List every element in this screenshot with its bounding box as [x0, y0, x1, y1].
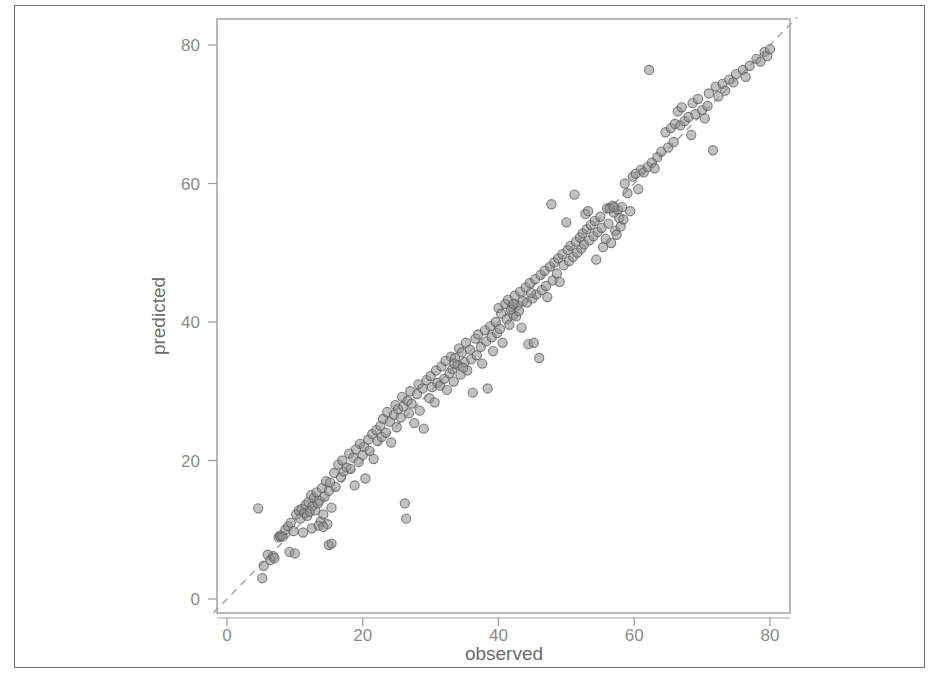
scatter-point [596, 212, 605, 221]
scatter-point [450, 359, 459, 368]
scatter-point [270, 554, 279, 563]
scatter-point [562, 218, 571, 227]
scatter-point [607, 238, 616, 247]
scatter-point [319, 522, 328, 531]
scatter-point [547, 200, 556, 209]
scatter-point [498, 338, 507, 347]
scatter-point [677, 103, 686, 112]
screenshot-page: 020406080 020406080 observed predicted [0, 0, 947, 683]
x-axis: 020406080 [217, 618, 790, 645]
scatter-point [488, 346, 497, 355]
scatter-point [703, 101, 712, 110]
scatter-point [645, 65, 654, 74]
scatter-point [609, 202, 618, 211]
x-tick-label: 60 [625, 626, 644, 645]
x-tick-label: 80 [761, 626, 780, 645]
scatter-point [634, 184, 643, 193]
scatter-point [254, 504, 263, 513]
x-tick-label: 0 [222, 626, 231, 645]
scatter-point [626, 207, 635, 216]
scatter-point [620, 179, 629, 188]
scatter-point [407, 399, 416, 408]
scatter-point [361, 474, 370, 483]
y-axis: 020406080 [181, 36, 217, 609]
scatter-point [400, 499, 409, 508]
scatter-point [289, 527, 298, 536]
scatter-point [517, 323, 526, 332]
x-axis-title: observed [465, 643, 543, 664]
scatter-point [346, 464, 355, 473]
scatter-point [687, 130, 696, 139]
scatter-point [483, 384, 492, 393]
scatter-point [415, 406, 424, 415]
scatter-point [442, 385, 451, 394]
scatter-point [327, 539, 336, 548]
scatter-point [669, 137, 678, 146]
y-tick-label: 60 [181, 175, 200, 194]
scatter-point [258, 574, 267, 583]
scatter-point [555, 277, 564, 286]
x-tick-label: 20 [353, 626, 372, 645]
scatter-point [472, 351, 481, 360]
y-tick-label: 40 [181, 313, 200, 332]
scatter-point [365, 446, 374, 455]
scatter-point [526, 288, 535, 297]
scatter-point [419, 424, 428, 433]
scatter-point [509, 299, 518, 308]
scatter-point [650, 164, 659, 173]
scatter-point [612, 230, 621, 239]
scatter-point [387, 438, 396, 447]
scatter-point [535, 353, 544, 362]
scatter-point [721, 86, 730, 95]
scatter-point [410, 419, 419, 428]
scatter-point [319, 510, 328, 519]
y-tick-label: 80 [181, 36, 200, 55]
plot-svg: 020406080 020406080 observed predicted [0, 0, 947, 683]
scatter-point [392, 423, 401, 432]
scatter-point [623, 189, 632, 198]
scatter-point [765, 45, 774, 54]
scatter-point [381, 428, 390, 437]
scatter-point [570, 190, 579, 199]
scatter-point [418, 384, 427, 393]
scatter-point [495, 324, 504, 333]
scatter-point [290, 549, 299, 558]
scatter-plot-figure: 020406080 020406080 observed predicted [0, 0, 947, 683]
scatter-point [327, 503, 336, 512]
scatter-point [478, 359, 487, 368]
scatter-point [741, 72, 750, 81]
scatter-point [298, 528, 307, 537]
scatter-point [543, 292, 552, 301]
scatter-point [529, 338, 538, 347]
scatter-point [693, 94, 702, 103]
scatter-point [708, 146, 717, 155]
scatter-point [468, 388, 477, 397]
scatter-point [404, 409, 413, 418]
y-axis-title: predicted [148, 277, 169, 355]
scatter-point [331, 482, 340, 491]
scatter-point [350, 481, 359, 490]
scatter-point [402, 514, 411, 523]
scatter-point [430, 398, 439, 407]
scatter-point [505, 320, 514, 329]
scatter-point [369, 455, 378, 464]
scatter-point [459, 363, 468, 372]
scatter-point [584, 207, 593, 216]
y-tick-label: 20 [181, 452, 200, 471]
scatter-point [700, 114, 709, 123]
y-tick-label: 0 [191, 590, 200, 609]
scatter-point [619, 215, 628, 224]
scatter-point [592, 255, 601, 264]
